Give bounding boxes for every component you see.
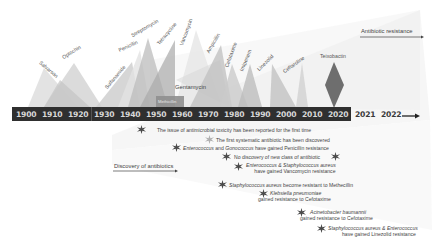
starburst-icon bbox=[172, 143, 181, 152]
starburst-icon bbox=[222, 152, 231, 161]
event-acinetobacter-cefotaxime: Acinetobacter baumanniigained resistance… bbox=[300, 209, 373, 221]
year-label: 1970 bbox=[198, 110, 218, 119]
antibiotic-label-teixobactin: Teixobactin bbox=[320, 53, 346, 59]
starburst-icon bbox=[234, 162, 243, 171]
year-label: 1940 bbox=[120, 110, 140, 119]
event-vancomycin-resistance: Enterococcus & Staphylococcus aureushave… bbox=[246, 162, 336, 174]
starburst-icon-light bbox=[205, 135, 214, 144]
starburst-icon bbox=[218, 180, 227, 189]
year-label: 1920 bbox=[68, 110, 88, 119]
year-label: 1980 bbox=[224, 110, 244, 119]
antibiotic-resistance-header: Antibiotic resistance bbox=[361, 28, 413, 34]
year-label: 2010 bbox=[302, 110, 322, 119]
event-linezolid-resistance: Staphylococcus aureus & Enterococcushave… bbox=[328, 225, 418, 237]
event-klebsiella-cefotaxime: Klebsiella pneumoniaegained resistance t… bbox=[258, 190, 331, 202]
starburst-icon bbox=[317, 224, 326, 233]
year-label: 2000 bbox=[276, 110, 296, 119]
year-label: 2022 bbox=[381, 110, 401, 119]
event-penicillin-resistance: Enterococcus and Gonococcus have gained … bbox=[183, 145, 329, 151]
antibiotic-timeline-diagram: 1900 1910 1920 1930 1940 1950 1960 1970 … bbox=[0, 0, 436, 244]
year-label: 1950 bbox=[146, 110, 166, 119]
antibiotic-label-gentamycin: Gentamycin bbox=[175, 84, 206, 90]
event-methicillin-resistance: Staphylococcus aureus become resistant t… bbox=[229, 182, 353, 188]
year-label: 1900 bbox=[16, 110, 36, 119]
axis-divider bbox=[91, 107, 92, 121]
starburst-icon bbox=[137, 125, 146, 134]
year-label: 1910 bbox=[42, 110, 62, 119]
event-no-new-class: No discovery of new class of antibiotic bbox=[234, 154, 320, 160]
year-label: 1990 bbox=[250, 110, 270, 119]
year-label: 1930 bbox=[94, 110, 114, 119]
starburst-icon bbox=[331, 152, 340, 161]
event-first-systematic-antibiotic: The first systematic antibiotic has been… bbox=[216, 137, 330, 143]
year-label: 1960 bbox=[172, 110, 192, 119]
year-label: 2021 bbox=[355, 110, 375, 119]
discovery-of-antibiotics-header: Discovery of antibiotics bbox=[114, 163, 173, 169]
event-toxicity-reported: The issue of antimicrobial toxicity has … bbox=[157, 127, 311, 133]
year-label: 2020 bbox=[328, 110, 348, 119]
antibiotic-label-methicillin: Methicillin bbox=[158, 99, 176, 104]
